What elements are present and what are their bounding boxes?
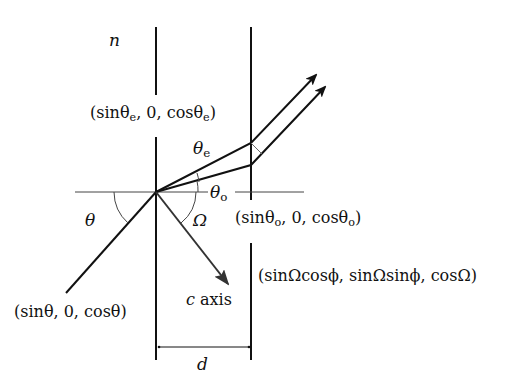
theta-label: θ xyxy=(85,212,95,229)
c-axis-arrow xyxy=(156,192,228,284)
c-axis-vector-label: (sinΩcosϕ, sinΩsinϕ, cosΩ) xyxy=(258,268,477,284)
theta-o-arc xyxy=(197,181,198,192)
c-axis-label: c axis xyxy=(186,292,232,308)
extraordinary-vector-label: (sinθe, 0, cosθe) xyxy=(90,105,216,123)
incident-vector-label: (sinθ, 0, cosθ) xyxy=(14,304,127,320)
theta-arc xyxy=(114,192,128,223)
wavefront-connector xyxy=(251,143,262,154)
refractive-index-label: n xyxy=(109,32,120,49)
extraordinary-ray xyxy=(156,75,316,192)
birefringence-diagram: n (sinθe, 0, cosθe) θe θo θ Ω (sinθo, 0,… xyxy=(0,0,505,387)
theta-e-label: θe xyxy=(193,140,210,160)
theta-o-label: θo xyxy=(210,184,227,204)
omega-label: Ω xyxy=(193,212,207,229)
incident-ray xyxy=(66,192,156,293)
ordinary-vector-label: (sinθo, 0, cosθo) xyxy=(235,210,361,228)
diagram-lines xyxy=(0,0,505,387)
thickness-label: d xyxy=(197,356,208,373)
